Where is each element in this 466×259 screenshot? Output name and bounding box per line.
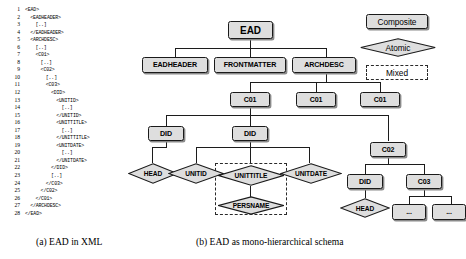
edge-to-ellipsis-b — [451, 196, 452, 204]
node-ellipsis-b-label: ... — [446, 208, 452, 216]
node-did-left: DID — [148, 126, 184, 141]
node-ead-label: EAD — [240, 25, 261, 36]
node-eadheader-label: EADHEADER — [153, 61, 197, 69]
node-archdesc: ARCHDESC — [292, 57, 356, 73]
node-did-mid: DID — [232, 126, 268, 141]
node-c01-b: C01 — [296, 92, 336, 107]
edge-to-did-right — [365, 164, 366, 174]
edge-to-unittitle — [250, 147, 251, 163]
caption-subfigure-b: (b) EAD as mono-hierarchical schema — [196, 236, 344, 247]
node-unitid-label: UNITID — [185, 170, 206, 177]
node-did-right-label: DID — [359, 178, 371, 186]
node-unittitle: UNITTITLE — [218, 165, 284, 186]
edge-to-ellipsis-a — [409, 196, 410, 204]
node-ellipsis-a: ... — [392, 204, 426, 220]
legend-atomic-label: Atomic — [386, 43, 411, 53]
edge-to-c01-b — [316, 82, 317, 92]
caption-subfigure-a: (a) EAD in XML — [36, 236, 102, 247]
node-persname: PERSNAME — [218, 196, 284, 215]
node-eadheader: EADHEADER — [142, 57, 208, 73]
node-head-right: HEAD — [340, 198, 390, 218]
node-c01-a: C01 — [230, 92, 270, 107]
node-unitdate-label: UNITDATE — [295, 170, 327, 177]
node-c03: C03 — [406, 174, 442, 189]
edge-c01a-bus — [166, 115, 388, 116]
node-c02: C02 — [370, 142, 406, 157]
schema-tree: EAD EADHEADER FRONTMATTER ARCHDESC C01 C… — [0, 0, 464, 232]
node-did-mid-label: DID — [244, 130, 256, 138]
node-frontmatter-label: FRONTMATTER — [224, 61, 276, 69]
node-c03-label: C03 — [418, 178, 431, 186]
node-c02-label: C02 — [382, 146, 395, 154]
edge-c01-bus — [250, 82, 380, 83]
node-persname-label: PERSNAME — [233, 202, 270, 209]
node-c01-c-label: C01 — [374, 96, 387, 104]
edge-didmid-bus — [196, 147, 309, 148]
edge-to-unitdate — [309, 147, 310, 163]
edge-to-did-mid — [250, 115, 251, 126]
edge-c02-bus — [365, 164, 424, 165]
edge-to-did-left — [166, 115, 167, 126]
edge-didright-down — [365, 189, 366, 198]
edge-to-c02 — [388, 115, 389, 141]
node-unittitle-label: UNITTITLE — [235, 172, 268, 179]
edge-to-c01-c — [380, 82, 381, 92]
edge-to-head-left — [152, 147, 153, 163]
node-archdesc-label: ARCHDESC — [304, 61, 343, 69]
node-c01-c: C01 — [360, 92, 400, 107]
node-head-left-label: HEAD — [144, 170, 162, 177]
node-unitdate: UNITDATE — [280, 163, 342, 184]
edge-didleft-bus — [152, 147, 167, 148]
node-head-right-label: HEAD — [356, 205, 374, 212]
node-ellipsis-a-label: ... — [406, 208, 412, 216]
node-did-left-label: DID — [160, 130, 172, 138]
node-c01-b-label: C01 — [310, 96, 323, 104]
node-unitid: UNITID — [168, 163, 224, 184]
node-frontmatter: FRONTMATTER — [214, 57, 286, 73]
edge-c03-bus — [409, 196, 452, 197]
node-c01-a-label: C01 — [244, 96, 257, 104]
node-did-right: DID — [347, 174, 383, 189]
edge-to-c01-a — [250, 82, 251, 92]
edge-to-unitid — [196, 147, 197, 163]
edge-to-c03 — [424, 164, 425, 174]
node-ellipsis-b: ... — [432, 204, 466, 220]
node-ead: EAD — [228, 21, 273, 39]
